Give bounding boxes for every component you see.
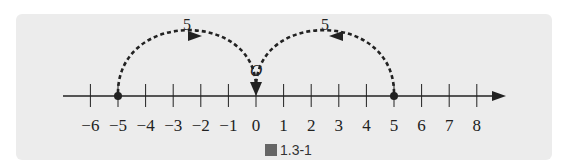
tick-label: 3 — [335, 116, 344, 135]
origin-label: O — [250, 61, 262, 80]
tick-label: −6 — [81, 116, 99, 135]
point-5 — [390, 92, 398, 100]
tick-label: 4 — [362, 116, 371, 135]
caption-number: 1.3-1 — [280, 142, 312, 158]
tick-label: 0 — [252, 116, 261, 135]
tick-label: −4 — [137, 116, 156, 135]
axis-tick-labels: −6−5−4−3−2−1012345678 — [81, 116, 481, 135]
figure-icon — [265, 144, 277, 156]
point-minus-5 — [114, 92, 122, 100]
tick-label: −2 — [192, 116, 210, 135]
tick-label: 8 — [473, 116, 482, 135]
tick-label: 7 — [445, 116, 454, 135]
jump-arc-left — [118, 30, 256, 93]
arc-arrow-left-icon — [329, 31, 343, 41]
axis-arrow-icon — [492, 91, 506, 101]
jump-label-right: 5 — [321, 16, 329, 33]
figure-caption: 1.3-1 — [265, 142, 312, 158]
tick-label: −1 — [219, 116, 237, 135]
tick-label: 2 — [307, 116, 316, 135]
jump-label-left: 5 — [183, 16, 191, 33]
tick-label: 1 — [279, 116, 288, 135]
tick-label: 6 — [417, 116, 426, 135]
jump-arc-right — [256, 30, 394, 93]
tick-label: −5 — [109, 116, 127, 135]
arc-arrow-down-icon — [250, 82, 262, 96]
tick-label: 5 — [390, 116, 399, 135]
tick-label: −3 — [164, 116, 182, 135]
